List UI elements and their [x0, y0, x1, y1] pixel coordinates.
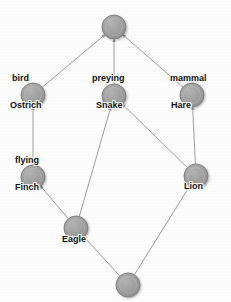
node-snake[interactable]: [102, 84, 126, 108]
edges-layer: [33, 36, 195, 276]
node-finch[interactable]: [21, 165, 45, 189]
edge-bottom-lion: [135, 187, 189, 274]
edge-eagle-finch: [42, 187, 68, 218]
edge-eagle-snake: [79, 109, 110, 216]
arrowheads-layer: [31, 34, 195, 240]
node-top[interactable]: [102, 15, 126, 39]
edge-bottom-eagle: [85, 238, 119, 276]
node-hare[interactable]: [180, 83, 204, 107]
node-ostrich[interactable]: [21, 83, 45, 107]
edge-lion-hare: [193, 108, 196, 163]
concept-lattice-diagram: birdOstrichpreyingSnakemammalHareflyingF…: [0, 0, 231, 302]
edge-ostrich-top: [43, 36, 104, 87]
lattice-canvas: [0, 0, 231, 302]
edge-lion-snake: [124, 105, 187, 167]
node-bottom[interactable]: [116, 273, 140, 297]
node-lion[interactable]: [184, 164, 208, 188]
node-eagle[interactable]: [64, 216, 88, 240]
edge-hare-top: [124, 36, 182, 87]
